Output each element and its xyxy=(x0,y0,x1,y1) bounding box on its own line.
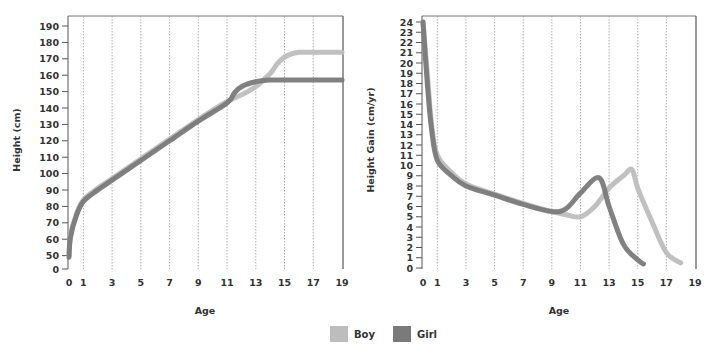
x-tick-label: 5 xyxy=(491,277,498,288)
y-tick-label: 20 xyxy=(400,58,414,69)
y-tick-label: 10 xyxy=(400,160,414,171)
x-tick-label: 0 xyxy=(420,277,427,288)
x-tick-label: 15 xyxy=(631,277,644,288)
y-tick-label: 3 xyxy=(406,232,413,243)
x-tick-label: 17 xyxy=(660,277,673,288)
x-tick-label: 19 xyxy=(688,277,701,288)
y-tick-label: 23 xyxy=(400,27,413,38)
x-tick-label: 15 xyxy=(278,277,291,288)
x-axis-title: Age xyxy=(549,305,570,316)
y-tick-label: 22 xyxy=(400,37,413,48)
x-tick-label: 17 xyxy=(307,277,320,288)
x-axis-title: Age xyxy=(195,305,216,316)
y-tick-label: 16 xyxy=(400,99,414,110)
y-tick-label: 12 xyxy=(400,140,413,151)
y-tick-label: 19 xyxy=(400,68,413,79)
x-tick-label: 1 xyxy=(80,277,87,288)
y-tick-label: 9 xyxy=(406,170,413,181)
x-tick-label: 5 xyxy=(138,277,145,288)
x-tick-label: 13 xyxy=(249,277,262,288)
y-tick-label: 14 xyxy=(400,119,414,130)
y-tick-label: 11 xyxy=(400,150,413,161)
y-tick-label: 120 xyxy=(39,135,59,146)
y-tick-label: 8 xyxy=(406,181,413,192)
x-tick-label: 7 xyxy=(520,277,527,288)
y-tick-label: 5 xyxy=(406,211,413,222)
x-tick-label: 11 xyxy=(220,277,233,288)
y-tick-label: 18 xyxy=(400,78,414,89)
charts-canvas: 0506070809010011012013014015016017018019… xyxy=(0,0,711,358)
y-tick-label: 17 xyxy=(400,88,413,99)
y-tick-label: 150 xyxy=(39,86,59,97)
y-tick-label: 90 xyxy=(46,185,60,196)
x-tick-label: 13 xyxy=(602,277,615,288)
y-tick-label: 110 xyxy=(39,152,59,163)
girl-swatch-icon xyxy=(393,326,411,342)
x-tick-label: 3 xyxy=(463,277,470,288)
y-tick-label: 170 xyxy=(39,53,59,64)
y-tick-label: 180 xyxy=(39,37,59,48)
y-tick-label: 13 xyxy=(400,129,413,140)
y-tick-label: 0 xyxy=(406,263,413,274)
girl-series-line xyxy=(423,22,643,264)
y-tick-label: 50 xyxy=(46,250,60,261)
y-tick-label: 80 xyxy=(46,201,60,212)
legend-label-boy: Boy xyxy=(354,329,375,340)
x-tick-label: 9 xyxy=(195,277,202,288)
legend: Boy Girl xyxy=(330,326,447,342)
boy-swatch-icon xyxy=(330,326,348,342)
legend-item-boy: Boy xyxy=(330,326,375,342)
y-tick-label: 1 xyxy=(406,252,413,263)
x-tick-label: 0 xyxy=(66,277,73,288)
y-axis-title: Height Gain (cm/yr) xyxy=(365,87,376,192)
y-tick-label: 190 xyxy=(39,21,59,32)
x-tick-label: 9 xyxy=(549,277,556,288)
y-tick-label: 6 xyxy=(406,201,413,212)
y-tick-label: 160 xyxy=(39,70,59,81)
legend-label-girl: Girl xyxy=(417,329,437,340)
boy-series-line xyxy=(69,52,342,255)
x-tick-label: 19 xyxy=(335,277,348,288)
girl-series-line xyxy=(69,80,342,257)
y-tick-label: 130 xyxy=(39,119,59,130)
y-tick-label: 2 xyxy=(406,242,413,253)
y-tick-label: 60 xyxy=(46,234,60,245)
y-tick-label: 4 xyxy=(406,222,413,233)
x-tick-label: 1 xyxy=(434,277,441,288)
y-tick-label: 70 xyxy=(46,217,60,228)
y-tick-label: 7 xyxy=(406,191,413,202)
x-tick-label: 3 xyxy=(109,277,116,288)
legend-item-girl: Girl xyxy=(393,326,437,342)
y-tick-label: 21 xyxy=(400,47,413,58)
x-tick-label: 11 xyxy=(574,277,587,288)
y-tick-label: 140 xyxy=(39,103,59,114)
x-tick-label: 7 xyxy=(166,277,173,288)
y-tick-label: 24 xyxy=(400,17,414,28)
y-axis-title: Height (cm) xyxy=(11,108,22,171)
y-tick-label: 100 xyxy=(39,168,59,179)
y-tick-label: 15 xyxy=(400,109,413,120)
y-tick-label: 0 xyxy=(52,264,59,275)
